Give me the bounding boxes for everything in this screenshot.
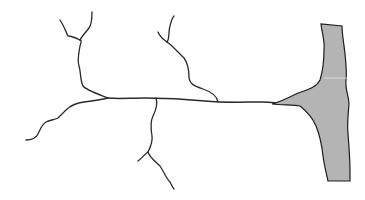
lower-middle-dendrite [138,98,174,189]
main-axon [108,98,290,104]
gray-terminal [272,24,350,181]
neuron-diagram [0,0,365,200]
lower-left-dendrite [26,98,108,140]
upper-middle-dendrite [158,16,218,102]
upper-left-dendrite [60,12,108,98]
